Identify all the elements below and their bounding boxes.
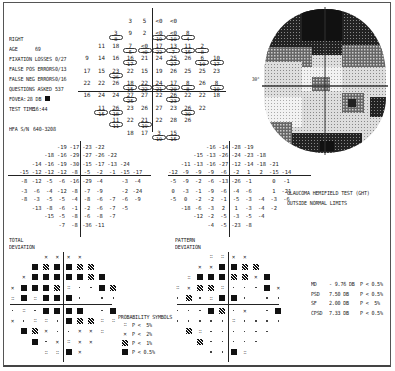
threshold-value: 26 — [195, 80, 209, 86]
legend-symbol — [120, 338, 130, 347]
normal-dot-icon — [12, 310, 13, 311]
prob-5-percent-icon: ∷ — [112, 318, 115, 323]
normal-dot-icon — [210, 331, 211, 332]
threshold-repeat-value: 8 — [109, 35, 123, 40]
threshold-repeat-value: 10 — [210, 85, 224, 90]
prob-half-percent-icon — [32, 285, 38, 291]
normal-dot-icon — [244, 341, 245, 342]
deviation-value: -7 — [105, 213, 119, 219]
prob-half-percent-icon — [21, 295, 27, 301]
threshold-value: 21 — [138, 55, 152, 61]
probability-cell — [97, 283, 108, 292]
false-pos-value: 0/13 — [55, 66, 66, 72]
prob-2-percent-icon: ⨯ — [187, 285, 191, 291]
normal-dot-icon — [45, 341, 46, 342]
probability-cell: ∷ — [217, 252, 228, 261]
normal-dot-icon — [23, 320, 24, 321]
ght-title: GLAUCOMA HEMIFIELD TEST (GHT) — [287, 190, 370, 196]
probability-cell — [85, 283, 96, 292]
probability-cell — [194, 273, 205, 282]
threshold-value: 3 — [123, 18, 137, 24]
probability-cell — [273, 294, 284, 303]
threshold-repeat-value: 23 — [166, 97, 180, 102]
probability-cell — [262, 316, 273, 325]
normal-dot-icon — [79, 287, 80, 288]
probability-cell — [239, 283, 250, 292]
probability-cell — [273, 316, 284, 325]
probability-cell — [7, 306, 18, 315]
probability-cell — [97, 294, 108, 303]
deviation-value: -19 — [242, 144, 256, 150]
prob-5-percent-icon: ∷ — [56, 350, 59, 355]
deviation-value: -22 — [93, 144, 107, 150]
threshold-value: 9 — [80, 55, 94, 61]
prob-1-percent-icon — [77, 264, 83, 270]
normal-dot-icon — [101, 310, 102, 311]
probability-cell — [41, 306, 52, 315]
probability-cell — [262, 294, 273, 303]
prob-5-percent-icon: ∷ — [221, 285, 224, 290]
ght-result: OUTSIDE NORMAL LIMITS — [287, 200, 347, 206]
prob-2-percent-icon: ⨯ — [254, 274, 258, 280]
legend-symbol: ∷ — [120, 320, 130, 329]
probability-cell: ⨯ — [85, 337, 96, 346]
probability-cell — [18, 316, 29, 325]
probability-cell — [172, 306, 183, 315]
normal-dot-icon — [177, 310, 178, 311]
probability-cell: ∷ — [228, 316, 239, 325]
prob-2-percent-icon: ⨯ — [78, 254, 82, 260]
normal-dot-icon — [57, 331, 58, 332]
prob-1-percent-icon — [122, 340, 128, 346]
probability-cell — [217, 294, 228, 303]
index-value: - 9.76 DB — [329, 281, 355, 287]
prob-half-percent-icon — [77, 274, 83, 280]
probability-cell — [183, 327, 194, 336]
probability-cell — [262, 306, 273, 315]
probability-cell — [239, 316, 250, 325]
probability-cell: ⨯ — [206, 262, 217, 271]
normal-dot-icon — [278, 320, 279, 321]
index-label: MD — [311, 281, 317, 287]
prob-half-percent-icon — [66, 349, 72, 355]
prob-half-percent-icon — [264, 285, 270, 291]
probability-cell — [41, 337, 52, 346]
probability-cell — [206, 348, 217, 357]
probability-cell — [52, 262, 63, 271]
normal-dot-icon — [34, 310, 35, 311]
threshold-value: 24 — [109, 92, 123, 98]
prob-1-percent-icon — [208, 285, 214, 291]
probability-cell — [250, 283, 261, 292]
probability-cell — [18, 327, 29, 336]
prob-5-percent-icon: ∷ — [124, 322, 127, 327]
legend-symbol: ⨯ — [120, 329, 130, 338]
probability-cell — [262, 283, 273, 292]
probability-cell — [63, 294, 74, 303]
probability-cell — [228, 306, 239, 315]
index-probability: P < 0.5% — [360, 310, 383, 316]
threshold-value: 26 — [109, 80, 123, 86]
prob-half-percent-icon — [21, 328, 27, 334]
normal-dot-icon — [222, 320, 223, 321]
probability-cell — [183, 316, 194, 325]
normal-dot-icon — [199, 310, 200, 311]
prob-2-percent-icon: ⨯ — [243, 308, 247, 314]
prob-half-percent-icon — [197, 274, 203, 280]
threshold-value: 24 — [152, 55, 166, 61]
deviation-value: -18 — [254, 152, 268, 158]
false-pos-label: FALSE POS ERRORS — [9, 66, 55, 72]
threshold-value: 15 — [94, 68, 108, 74]
prob-1-percent-icon — [242, 274, 248, 280]
probability-cell: ∷ — [172, 283, 183, 292]
probability-cell: ⨯ — [7, 316, 18, 325]
prob-1-percent-icon — [88, 264, 94, 270]
normal-dot-icon — [222, 331, 223, 332]
prob-1-percent-icon — [88, 274, 94, 280]
threshold-value: 25 — [195, 68, 209, 74]
threshold-value: 23 — [166, 105, 180, 111]
prob-2-percent-icon: ⨯ — [22, 274, 26, 280]
probability-cell — [228, 262, 239, 271]
pattern-deviation-axis-horizontal — [168, 175, 311, 176]
threshold-repeat-value: 26 — [109, 73, 123, 78]
total-deviation-axis-vertical — [80, 141, 81, 237]
normal-dot-icon — [113, 297, 114, 298]
